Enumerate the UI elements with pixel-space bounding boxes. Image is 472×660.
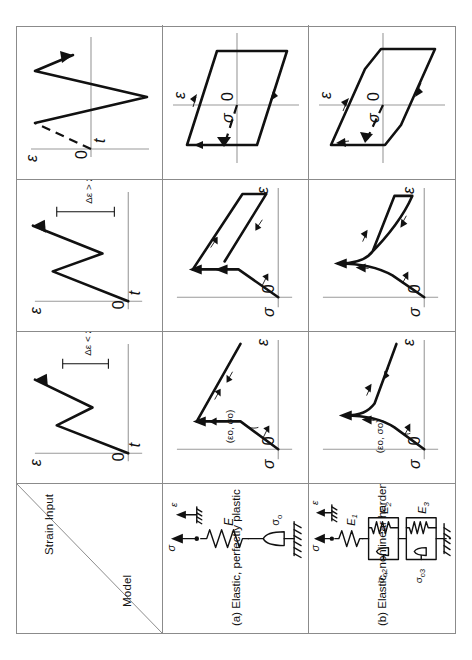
axis-origin-a2: 0 [260, 284, 277, 293]
stress-strain-chart-b1: σ 0 ε (εo, σo) [309, 332, 455, 483]
axis-label-y-a2: σ [260, 306, 277, 317]
model-b-spring3-label: E3 [416, 502, 430, 514]
stress-strain-chart-a2: σ 0 ε [163, 180, 309, 331]
stress-strain-chart-a1: σ 0 ε (εo, σo) [163, 332, 309, 483]
axis-origin-2: 0 [110, 300, 127, 309]
model-a-slider-label: σo [269, 514, 283, 526]
strain-input-chart-3: ε 0 t [17, 25, 163, 179]
dim-label-2: Δε > 2εo [83, 179, 96, 204]
axis-origin-b1: 0 [406, 436, 423, 445]
column-header-strain-input: Strain Input [43, 494, 55, 555]
axis-origin-a1: 0 [260, 436, 277, 445]
figure-table: Strain Input Model ε 0 t Δε < 2εo [16, 26, 456, 634]
model-b-slider2-label: σo2 [375, 569, 388, 583]
axis-label-x-b1: ε [400, 338, 417, 346]
axis-label-y-b2: σ [406, 306, 423, 317]
axis-origin-b2: 0 [406, 284, 423, 293]
stress-strain-chart-a3: σ 0 ε [163, 25, 309, 179]
model-b-stress-label: σ [309, 545, 321, 552]
axis-label-x-2: t [126, 290, 143, 295]
axis-label-x-a1: ε [254, 338, 271, 346]
axis-label-y-1: ε [27, 458, 44, 466]
model-cell-b: (b) Elastic, nonlinear hardening [309, 483, 455, 633]
axis-origin-3: 0 [73, 150, 90, 159]
axis-label-y-a3: σ [219, 112, 236, 123]
model-a-spring-label: E [222, 517, 236, 526]
response-plot-b3: σ 0 ε [309, 25, 455, 179]
dim-label-1: Δε < 2εo [82, 331, 95, 356]
model-b-spring2-label: E2 [378, 502, 392, 514]
response-plot-b2: σ 0 ε [309, 179, 455, 331]
yield-point-annotation-a: (εo, σo) [224, 410, 235, 444]
axis-label-y-3: ε [23, 154, 40, 162]
strain-input-plot-1: ε 0 t Δε < 2εo [17, 331, 163, 483]
response-plot-a1: σ 0 ε (εo, σo) [163, 331, 309, 483]
axis-label-y-b1: σ [406, 458, 423, 469]
model-b-spring1-label: E1 [345, 514, 359, 526]
axis-label-y-2: ε [27, 306, 44, 314]
header-diagonal-cell: Strain Input Model [17, 483, 163, 633]
axis-label-x-a3: ε [171, 91, 188, 99]
strain-input-chart-1: ε 0 t Δε < 2εo [17, 332, 163, 483]
response-plot-b1: σ 0 ε (εo, σo) [309, 331, 455, 483]
axis-origin-1: 0 [110, 452, 127, 461]
stress-strain-chart-b2: σ 0 ε [309, 180, 455, 331]
stress-strain-chart-b3: σ 0 ε [309, 25, 455, 179]
response-plot-a3: σ 0 ε [163, 25, 309, 179]
rotated-page-wrapper: Strain Input Model ε 0 t Δε < 2εo [0, 0, 472, 660]
axis-origin-a3: 0 [219, 92, 236, 101]
yield-point-annotation-b: (εo, σo) [374, 419, 385, 453]
strain-input-plot-3: ε 0 t [17, 25, 163, 179]
row-header-model: Model [121, 575, 133, 607]
strain-input-plot-2: ε 0 t Δε > 2εo [17, 179, 163, 331]
axis-label-y-a1: σ [260, 458, 277, 469]
axis-label-x-a2: ε [254, 186, 271, 194]
axis-label-x-3: t [91, 138, 108, 143]
rheological-model-a: E σo σ ε [163, 484, 309, 633]
response-plot-a2: σ 0 ε [163, 179, 309, 331]
model-a-stress-label: σ [165, 545, 177, 552]
axis-label-y-b3: σ [365, 112, 382, 123]
figure-canvas: Strain Input Model ε 0 t Δε < 2εo [0, 0, 472, 660]
diagonal-divider-line [17, 484, 162, 633]
axis-label-x-b3: ε [317, 91, 334, 99]
model-cell-a: (a) Elastic, perfectly plastic [163, 483, 309, 633]
model-b-slider3-label: σo3 [413, 569, 426, 583]
axis-label-x-b2: ε [400, 186, 417, 194]
model-b-strain-label: ε [309, 500, 320, 505]
strain-input-chart-2: ε 0 t Δε > 2εo [17, 180, 163, 331]
rheological-model-b: E1 E2 E3 σo2 σo3 σ ε [309, 484, 455, 633]
axis-label-x-1: t [126, 442, 143, 447]
model-a-strain-label: ε [168, 502, 179, 507]
axis-origin-b3: 0 [365, 92, 382, 101]
